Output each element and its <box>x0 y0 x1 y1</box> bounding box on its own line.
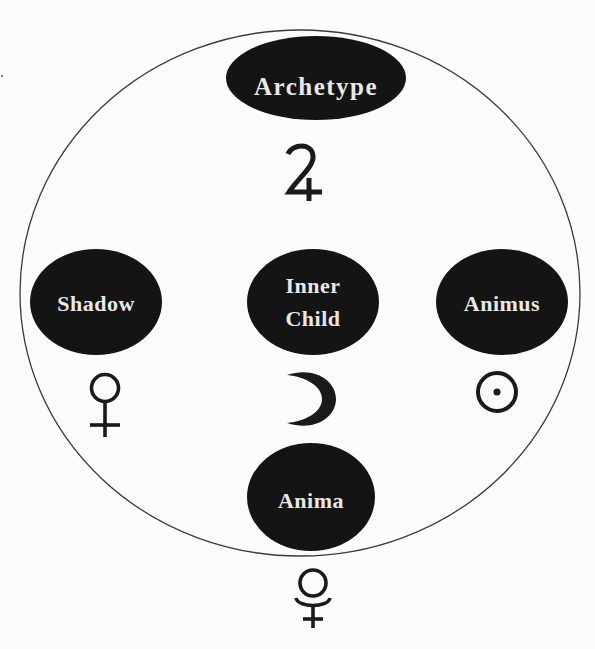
sun-icon <box>478 373 516 411</box>
node-anima-label: Anima <box>278 488 344 513</box>
node-inner-child-shape <box>247 249 379 355</box>
venus-icon <box>90 375 120 438</box>
node-archetype: Archetype <box>226 36 406 120</box>
node-inner-child-label-line1: Inner <box>285 273 340 298</box>
pluto-icon <box>296 570 330 628</box>
node-inner-child-label-line2: Child <box>285 306 340 331</box>
node-archetype-label: Archetype <box>254 73 378 100</box>
node-shadow: Shadow <box>30 249 162 355</box>
jupiter-icon <box>288 146 322 201</box>
moon-crescent-icon <box>287 372 336 425</box>
node-shadow-label: Shadow <box>57 291 135 316</box>
node-inner-child: Inner Child <box>247 249 379 355</box>
node-animus-label: Animus <box>464 291 540 316</box>
archetype-diagram: Archetype Shadow Inner Child Animus Anim… <box>0 0 595 649</box>
stray-dot <box>1 75 3 77</box>
node-anima: Anima <box>247 443 375 551</box>
node-animus: Animus <box>436 249 568 355</box>
